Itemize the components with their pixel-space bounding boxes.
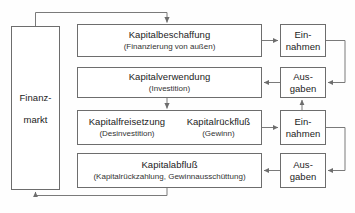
node-ausgaben-2-line1: Aus- bbox=[293, 159, 313, 170]
node-kapitalfreisetzung-title: Kapitalfreisetzung bbox=[89, 116, 165, 127]
node-einnahmen-1-line1: Ein- bbox=[294, 29, 311, 40]
node-ausgaben-1-line2: gaben bbox=[290, 83, 317, 94]
node-ausgaben-2[interactable]: Aus- gaben bbox=[280, 153, 326, 188]
node-kapitalbeschaffung-subtitle: (Finanzierung von außen) bbox=[124, 42, 216, 52]
node-kapitalverwendung-subtitle: (Investition) bbox=[149, 84, 190, 94]
node-ausgaben-2-line2: gaben bbox=[290, 171, 317, 182]
node-kapitalbeschaffung-title: Kapitalbeschaffung bbox=[129, 29, 211, 40]
node-ausgaben-1[interactable]: Aus- gaben bbox=[280, 67, 326, 98]
node-kapitalabfluss[interactable]: Kapitalabfluß (Kapitalrückzahlung, Gewin… bbox=[77, 153, 262, 188]
node-einnahmen-2[interactable]: Ein- nahmen bbox=[280, 110, 326, 145]
node-kapitalrueckfluss[interactable]: Kapitalrückfluß (Gewinn) bbox=[187, 116, 251, 139]
node-kapitalabfluss-title: Kapitalabfluß bbox=[141, 159, 197, 170]
node-einnahmen-2-line1: Ein- bbox=[294, 116, 311, 127]
node-finanzmarkt-line1: Finanz- bbox=[19, 92, 51, 103]
node-kapitalrueckfluss-subtitle: (Gewinn) bbox=[202, 129, 234, 139]
node-kapitalverwendung[interactable]: Kapitalverwendung (Investition) bbox=[77, 67, 262, 98]
node-kapitalbeschaffung[interactable]: Kapitalbeschaffung (Finanzierung von auß… bbox=[77, 24, 262, 57]
node-finanzmarkt[interactable]: Finanz- markt bbox=[11, 26, 60, 190]
node-ausgaben-1-line1: Aus- bbox=[293, 71, 313, 82]
node-finanzmarkt-line2: markt bbox=[24, 114, 48, 125]
node-kapitalfreisetzung[interactable]: Kapitalfreisetzung (Desinvestition) bbox=[89, 116, 165, 139]
node-kapitalrueckfluss-title: Kapitalrückfluß bbox=[187, 116, 251, 127]
node-einnahmen-1-line2: nahmen bbox=[286, 41, 321, 52]
node-einnahmen-1[interactable]: Ein- nahmen bbox=[280, 24, 326, 57]
node-kapitalfreisetzung-rueckfluss[interactable]: Kapitalfreisetzung (Desinvestition) Kapi… bbox=[77, 110, 262, 145]
node-kapitalverwendung-title: Kapitalverwendung bbox=[129, 71, 211, 82]
node-kapitalfreisetzung-subtitle: (Desinvestition) bbox=[99, 129, 154, 139]
node-einnahmen-2-line2: nahmen bbox=[286, 128, 321, 139]
edge-einnahmen-2-to-ausgaben-2 bbox=[326, 128, 345, 171]
node-kapitalabfluss-subtitle: (Kapitalrückzahlung, Gewinnausschüttung) bbox=[93, 172, 245, 182]
capital-flow-diagram: Finanz- markt Kapitalbeschaffung (Finanz… bbox=[0, 0, 355, 213]
edge-einnahmen-1-to-ausgaben-1 bbox=[326, 41, 345, 83]
